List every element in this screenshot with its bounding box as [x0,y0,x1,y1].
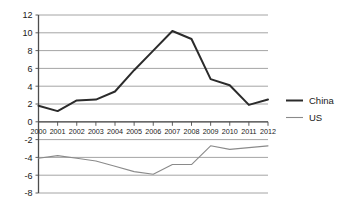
x-axis-tick-label: 2010 [222,127,238,136]
chart-canvas: 121086420-2-4-6-8 2000200120022003200420… [0,0,350,211]
series-group [39,31,269,174]
x-axis-tick-label: 2007 [164,127,180,136]
y-axis-tick-label: 6 [27,64,32,74]
x-axis-tick-label: 2009 [203,127,219,136]
x-axis-tick-label: 2003 [88,127,104,136]
y-axis-tick-label: 12 [22,10,32,20]
legend-label-us: US [309,112,322,123]
x-axis-tick-label: 2012 [260,127,276,136]
legend: ChinaUS [286,95,335,123]
x-axis-labels-group: 2000200120022003200420052006200720082009… [31,127,277,136]
y-axis-tick-label: 8 [27,46,32,56]
y-axis-tick-label: -4 [24,153,32,163]
x-axis-tick-label: 2011 [241,127,256,136]
series-line-us [39,146,269,174]
y-axis-tick-label: -8 [24,188,32,198]
x-axis-tick-label: 2001 [50,127,66,136]
gridlines-group [39,15,269,193]
x-axis-tick-label: 2006 [145,127,161,136]
y-axis-tick-label: 2 [27,99,32,109]
y-axis-tick-label: 4 [27,82,32,92]
x-axis-tick-label: 2000 [31,127,47,136]
y-axis-line [36,15,39,193]
x-axis-tick-label: 2004 [107,127,123,136]
line-chart: 121086420-2-4-6-8 2000200120022003200420… [0,0,350,211]
y-axis-labels-group: 121086420-2-4-6-8 [22,10,32,198]
x-axis-tick-label: 2008 [184,127,200,136]
x-axis-tick-label: 2002 [69,127,85,136]
y-axis-tick-label: -6 [24,171,32,181]
y-axis-tick-label: -2 [24,135,32,145]
y-axis-tick-label: 10 [22,28,32,38]
x-axis-tick-label: 2005 [126,127,142,136]
series-line-china [39,31,269,111]
legend-label-china: China [309,95,335,106]
y-axis-tick-label: 0 [27,117,32,127]
